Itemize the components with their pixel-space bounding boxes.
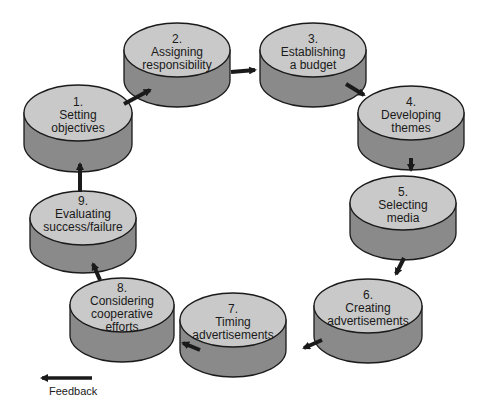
node-7-cylinder <box>180 293 286 377</box>
node-6-cylinder <box>314 279 422 363</box>
node-4-cylinder <box>358 86 464 170</box>
node-9-cylinder <box>30 191 136 273</box>
node-8-cylinder <box>70 278 174 362</box>
advertising-cycle-diagram <box>0 0 486 413</box>
arrow-2-to-3 <box>231 70 255 72</box>
node-5-cylinder <box>350 176 456 260</box>
feedback-legend-label: Feedback <box>49 385 97 397</box>
node-1-cylinder <box>24 85 132 172</box>
node-3-cylinder <box>260 23 366 107</box>
